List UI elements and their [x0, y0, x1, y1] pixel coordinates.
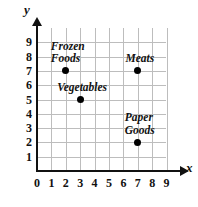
x-tick-label: 0	[30, 177, 44, 189]
data-point-label: PaperGoods	[125, 111, 155, 136]
y-tick-label: 1	[20, 151, 32, 163]
x-tick-label: 7	[131, 177, 145, 189]
x-tick-label: 2	[59, 177, 73, 189]
gridline-vertical	[138, 28, 139, 171]
y-axis-label: y	[24, 3, 30, 16]
data-point-label-line: Vegetables	[57, 81, 107, 94]
y-tick-label: 7	[20, 65, 32, 77]
data-point[interactable]	[77, 96, 84, 103]
y-tick-label: 8	[20, 51, 32, 63]
data-point-label-line: Foods	[51, 52, 85, 65]
y-tick-label: 4	[20, 108, 32, 120]
x-tick-label: 1	[44, 177, 58, 189]
data-point-label-line: Paper	[125, 111, 155, 124]
data-point-label: FrozenFoods	[51, 40, 85, 65]
x-tick-label: 6	[116, 177, 130, 189]
gridline-horizontal	[37, 100, 166, 101]
x-tick-label: 9	[160, 177, 174, 189]
data-point-label-line: Goods	[125, 124, 155, 137]
gridline-horizontal	[37, 157, 166, 158]
data-point-label-line: Frozen	[51, 40, 85, 53]
data-point-label: Vegetables	[57, 81, 107, 94]
gridline-vertical	[123, 28, 124, 171]
x-axis-label: x	[186, 161, 193, 174]
x-tick-label: 4	[88, 177, 102, 189]
y-tick-label: 2	[20, 136, 32, 148]
y-axis-arrowhead-icon	[32, 17, 42, 26]
y-axis-line	[36, 24, 38, 172]
coordinate-grid-chart: y x 0123456789123456789FrozenFoodsVegeta…	[0, 0, 198, 207]
y-tick-label: 5	[20, 94, 32, 106]
x-axis-line	[36, 170, 182, 172]
x-tick-label: 5	[102, 177, 116, 189]
gridline-vertical	[167, 28, 168, 171]
x-tick-label: 8	[145, 177, 159, 189]
y-tick-label: 9	[20, 36, 32, 48]
x-tick-label: 3	[73, 177, 87, 189]
gridline-vertical	[152, 28, 153, 171]
data-point-label-line: Meats	[125, 52, 154, 65]
y-tick-label: 3	[20, 122, 32, 134]
data-point-label: Meats	[125, 52, 154, 65]
gridline-horizontal	[37, 142, 166, 143]
gridline-horizontal	[37, 71, 166, 72]
y-tick-label: 6	[20, 79, 32, 91]
